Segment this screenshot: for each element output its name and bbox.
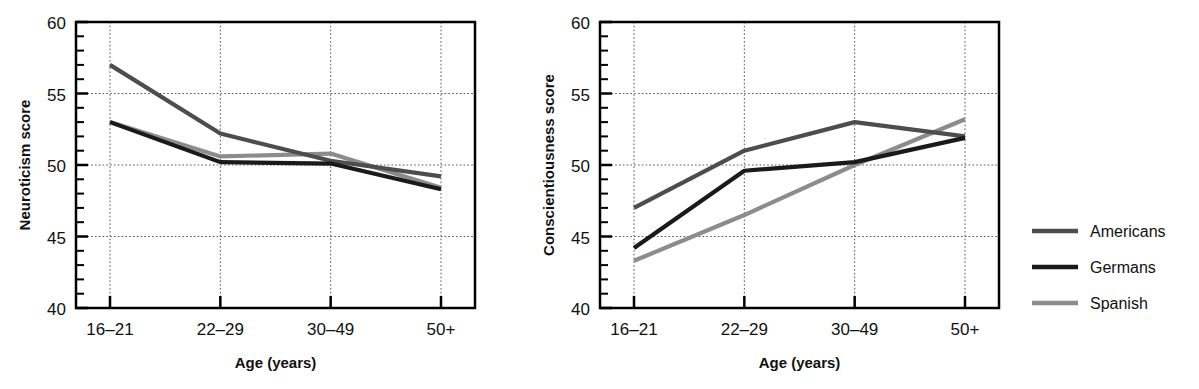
x-tick-label: 22–29 — [721, 320, 768, 339]
y-axis-title: Neuroticism score — [16, 100, 33, 231]
panel-right: 404550556016–2122–2930–4950+Conscientiou… — [540, 14, 999, 371]
y-tick-label: 55 — [571, 86, 590, 105]
y-tick-label: 60 — [47, 14, 66, 33]
y-tick-label: 45 — [571, 229, 590, 248]
legend-label-germans: Germans — [1090, 259, 1156, 276]
legend-label-spanish: Spanish — [1090, 295, 1148, 312]
legend: AmericansGermansSpanish — [1032, 223, 1166, 312]
y-tick-label: 50 — [47, 157, 66, 176]
y-tick-label: 55 — [47, 86, 66, 105]
x-tick-label: 30–49 — [831, 320, 878, 339]
x-tick-label: 16–21 — [610, 320, 657, 339]
y-tick-label: 40 — [571, 300, 590, 319]
x-axis-title: Age (years) — [759, 354, 841, 371]
two-panel-line-chart: 404550556016–2122–2930–4950+Neuroticism … — [0, 0, 1199, 389]
panel-left: 404550556016–2122–2930–4950+Neuroticism … — [16, 14, 475, 371]
series-line-spanish — [634, 119, 965, 261]
figure-container: 404550556016–2122–2930–4950+Neuroticism … — [0, 0, 1199, 389]
y-tick-label: 45 — [47, 229, 66, 248]
x-tick-label: 22–29 — [197, 320, 244, 339]
legend-label-americans: Americans — [1090, 223, 1166, 240]
x-tick-label: 50+ — [951, 320, 980, 339]
y-axis-title: Conscientiousness score — [540, 74, 557, 256]
x-tick-label: 50+ — [427, 320, 456, 339]
x-tick-label: 30–49 — [307, 320, 354, 339]
series-line-germans — [634, 138, 965, 248]
series-line-americans — [110, 65, 441, 177]
y-tick-label: 40 — [47, 300, 66, 319]
x-tick-label: 16–21 — [86, 320, 133, 339]
y-tick-label: 60 — [571, 14, 590, 33]
y-tick-label: 50 — [571, 157, 590, 176]
x-axis-title: Age (years) — [235, 354, 317, 371]
